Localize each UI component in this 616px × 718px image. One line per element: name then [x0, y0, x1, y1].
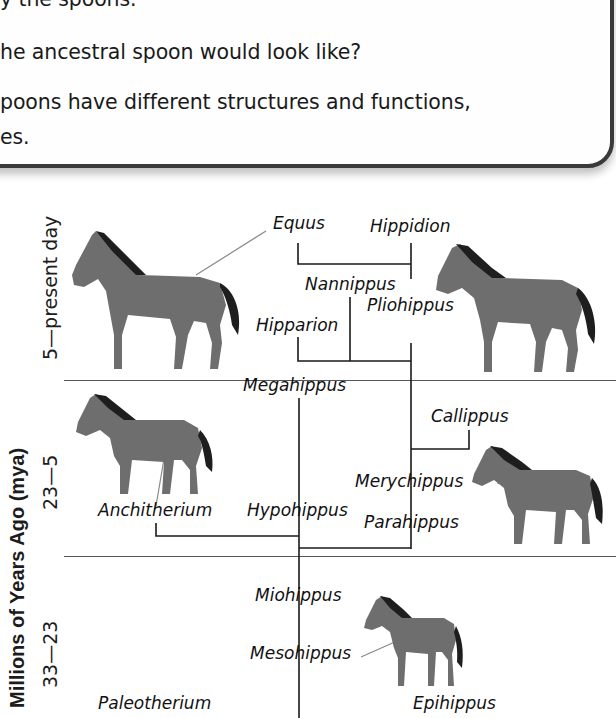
horse-icon-pliohippus: [432, 238, 612, 378]
taxon-equus: Equus: [273, 213, 325, 233]
taxon-miohippus: Miohippus: [255, 585, 342, 605]
taxon-callippus: Callippus: [431, 406, 509, 426]
taxon-parahippus: Parahippus: [364, 512, 459, 532]
taxon-epihippus: Epihippus: [413, 693, 496, 713]
taxon-paleotherium: Paleotherium: [98, 693, 211, 713]
taxon-hypohippus: Hypohippus: [247, 500, 348, 520]
horse-icon-anchitherium: [74, 386, 224, 502]
taxon-hipparion: Hipparion: [256, 315, 338, 335]
horse-icon-merychippus: [472, 440, 612, 552]
horse-icon-equus: [70, 225, 260, 377]
taxon-megahippus: Megahippus: [243, 375, 346, 395]
taxon-mesohippus: Mesohippus: [250, 643, 351, 663]
taxon-merychippus: Merychippus: [355, 471, 463, 491]
taxon-anchitherium: Anchitherium: [98, 500, 212, 520]
horse-icon-mesohippus: [364, 594, 468, 692]
taxon-nannippus: Nannippus: [305, 274, 396, 294]
taxon-hippidion: Hippidion: [370, 216, 451, 236]
